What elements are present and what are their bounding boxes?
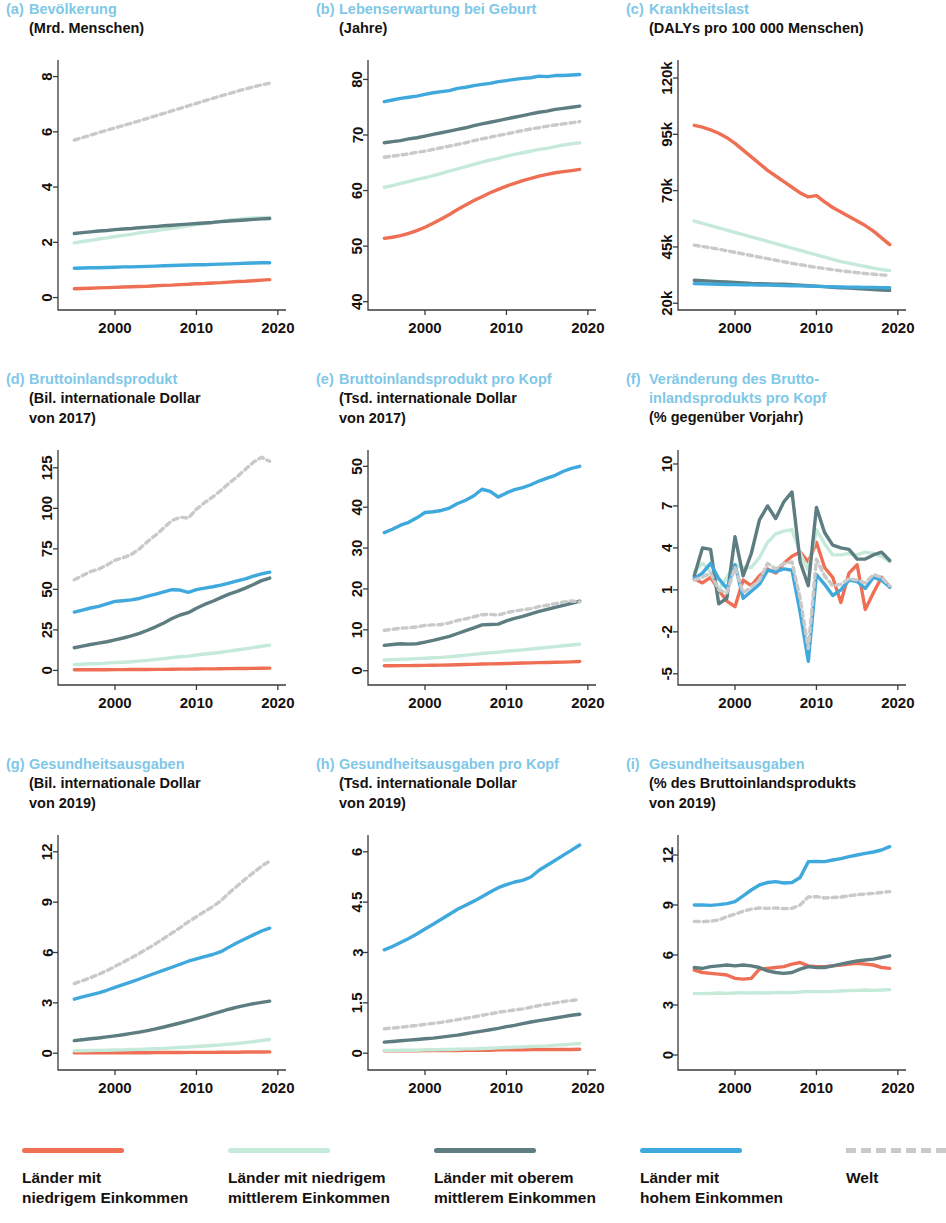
plot-svg-e: 01020304050200020102020	[310, 444, 620, 719]
y-tick-label: 9	[39, 898, 56, 906]
y-tick-label: 40	[349, 499, 366, 516]
plot-svg-c: 20k45k70k95k120k200020102020	[620, 54, 930, 344]
y-tick-label: 70	[349, 127, 366, 144]
x-tick-label: 2010	[180, 694, 213, 711]
figure-legend: Länder mit niedrigem EinkommenLänder mit…	[0, 1148, 930, 1223]
y-axis-d: 0255075100125	[39, 455, 59, 674]
y-tick-label: 4	[659, 543, 676, 552]
panel-title-e: (e)Bruttoinlandsprodukt pro Kopf	[316, 370, 620, 389]
y-tick-label: 50	[349, 238, 366, 255]
series-line-high	[384, 74, 579, 101]
panel-title-a: (a)Bevölkerung	[6, 0, 310, 19]
panel-unit-h-1: von 2019)	[316, 794, 620, 814]
panel-header-i: (i)Gesundheitsausgaben(% des Bruttoinlan…	[620, 755, 930, 813]
chart-panel-b: (b)Lebenserwartung bei Geburt(Jahre)4050…	[310, 0, 620, 344]
axes-a	[58, 60, 286, 310]
y-tick-label: 12	[39, 843, 56, 860]
series-line-high	[384, 845, 579, 950]
panel-unit-g-0: (Bil. internationale Dollar	[6, 774, 310, 794]
panel-title-h: (h)Gesundheitsausgaben pro Kopf	[316, 755, 620, 774]
y-tick-label: 0	[39, 666, 56, 674]
y-tick-label: 75	[39, 541, 56, 558]
y-tick-label: 3	[659, 1001, 676, 1009]
plot-area-d: 0255075100125200020102020	[0, 444, 310, 719]
legend-item-high[interactable]: Länder mit hohem Einkommen	[640, 1148, 783, 1208]
y-axis-f: -5-214710	[659, 456, 679, 681]
legend-item-upper_middle[interactable]: Länder mit oberem mittlerem Einkommen	[434, 1148, 596, 1208]
y-tick-label: 20	[349, 581, 366, 598]
series-group-a	[74, 83, 269, 289]
series-line-low	[74, 1052, 269, 1053]
legend-item-lower_middle[interactable]: Länder mit niedrigem mittlerem Einkommen	[228, 1148, 390, 1208]
plot-area-i: 036912200020102020	[620, 829, 930, 1104]
plot-area-h: 01.534.56200020102020	[310, 829, 620, 1104]
series-line-world	[74, 861, 269, 984]
plot-svg-b: 4050607080200020102020	[310, 54, 620, 344]
chart-panel-c: (c)Krankheitslast(DALYs pro 100 000 Mens…	[620, 0, 930, 344]
y-tick-label: 0	[349, 667, 366, 675]
legend-swatch-world	[846, 1148, 946, 1153]
y-tick-label: 2	[39, 238, 56, 246]
x-tick-label: 2010	[180, 1079, 213, 1096]
series-group-h	[384, 845, 579, 1051]
series-line-low	[74, 280, 269, 289]
x-tick-label: 2000	[718, 694, 751, 711]
plot-svg-d: 0255075100125200020102020	[0, 444, 310, 719]
panel-header-e: (e)Bruttoinlandsprodukt pro Kopf(Tsd. in…	[310, 370, 620, 428]
chart-panel-i: (i)Gesundheitsausgaben(% des Bruttoinlan…	[620, 755, 930, 1104]
chart-panel-d: (d)Bruttoinlandsprodukt(Bil. internation…	[0, 370, 310, 719]
x-axis-f: 200020102020	[718, 685, 914, 711]
y-tick-label: 0	[349, 1049, 366, 1057]
x-axis-e: 200020102020	[408, 685, 604, 711]
series-line-low	[694, 125, 889, 244]
x-tick-label: 2000	[408, 694, 441, 711]
x-tick-label: 2000	[98, 319, 131, 336]
legend-item-low[interactable]: Länder mit niedrigem Einkommen	[22, 1148, 188, 1208]
panel-header-a: (a)Bevölkerung(Mrd. Menschen)	[0, 0, 310, 39]
x-tick-label: 2010	[490, 319, 523, 336]
series-line-upper_middle	[384, 601, 579, 645]
panel-letter-c: (c)	[626, 0, 649, 19]
x-tick-label: 2020	[571, 694, 604, 711]
plot-svg-g: 036912200020102020	[0, 829, 310, 1104]
x-tick-label: 2000	[718, 319, 751, 336]
panel-header-h: (h)Gesundheitsausgaben pro Kopf(Tsd. int…	[310, 755, 620, 813]
x-tick-label: 2020	[881, 1079, 914, 1096]
plot-area-a: 02468200020102020	[0, 54, 310, 344]
series-line-upper_middle	[74, 219, 269, 234]
legend-label-world: Welt	[846, 1168, 946, 1188]
panel-unit-e-0: (Tsd. internationale Dollar	[316, 389, 620, 409]
y-tick-label: 12	[659, 847, 676, 864]
legend-swatch-low	[22, 1148, 124, 1153]
chart-panel-f: (f)Veränderung des Brutto-inlandsprodukt…	[620, 370, 930, 719]
x-tick-label: 2020	[261, 1079, 294, 1096]
y-tick-label: 80	[349, 71, 366, 88]
panel-title-text-a: Bevölkerung	[29, 1, 117, 17]
panel-header-c: (c)Krankheitslast(DALYs pro 100 000 Mens…	[620, 0, 930, 39]
y-tick-label: 0	[39, 1049, 56, 1057]
axes-e	[368, 450, 596, 685]
plot-svg-f: -5-214710200020102020	[620, 444, 930, 719]
x-tick-label: 2020	[881, 319, 914, 336]
y-tick-label: 8	[39, 72, 56, 80]
panel-title-c: (c)Krankheitslast	[626, 0, 930, 19]
panel-unit-f-0: (% gegenüber Vorjahr)	[626, 408, 930, 428]
x-tick-label: 2010	[800, 694, 833, 711]
y-tick-label: 70k	[659, 177, 676, 203]
y-tick-label: 3	[39, 999, 56, 1007]
y-tick-label: 30	[349, 540, 366, 557]
panel-header-d: (d)Bruttoinlandsprodukt(Bil. internation…	[0, 370, 310, 428]
y-tick-label: 6	[39, 948, 56, 956]
y-axis-i: 036912	[659, 847, 679, 1060]
x-tick-label: 2010	[800, 319, 833, 336]
legend-item-world[interactable]: Welt	[846, 1148, 946, 1188]
series-line-lower_middle	[694, 990, 889, 994]
panel-title-cont-f: inlandsprodukts pro Kopf	[626, 389, 930, 408]
x-tick-label: 2020	[571, 319, 604, 336]
y-tick-label: 0	[39, 293, 56, 301]
y-tick-label: -5	[659, 667, 676, 680]
series-line-high	[384, 466, 579, 532]
axes-g	[58, 835, 286, 1070]
axes-h	[368, 835, 596, 1070]
